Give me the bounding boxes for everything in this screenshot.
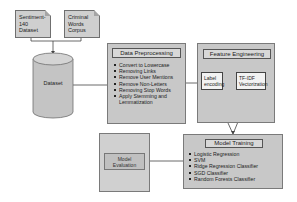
doc-line: Sentiment- [19, 14, 48, 21]
model-training-title: Model Training [205, 139, 263, 148]
model-training-panel: Model Training Logistic Regression SVM R… [183, 134, 283, 189]
model-evaluation-box: Model Evaluation [104, 153, 145, 170]
database-cylinder-icon [32, 52, 74, 120]
tfidf-vectorization-box: TF-IDF Vectorization [236, 72, 266, 90]
doc-line: Corpus [68, 27, 97, 34]
list-item: Apply Stemming and Lemmatization [119, 93, 189, 105]
label-encoding-box: Label encoding [201, 72, 223, 90]
box-line: encoding [204, 81, 220, 87]
box-line: Evaluation [105, 162, 144, 168]
doc-line: Dataset [19, 27, 48, 34]
models-list: Logistic Regression SVM Ridge Regression… [187, 151, 286, 182]
data-preprocessing-title: Data Preprocessing [112, 48, 181, 58]
feature-engineering-title: Feature Engineering [203, 49, 271, 59]
doc-fold-icon [94, 10, 100, 16]
data-preprocessing-panel: Data Preprocessing Convert to Lowercase … [107, 43, 186, 124]
box-line: Vectorization [239, 81, 263, 87]
doc-fold-icon [45, 10, 51, 16]
preprocessing-steps-list: Convert to Lowercase Removing Links Remo… [112, 62, 189, 105]
dataset-label: Dataset [33, 80, 73, 86]
list-item: Random Forests Classifier [194, 176, 286, 182]
